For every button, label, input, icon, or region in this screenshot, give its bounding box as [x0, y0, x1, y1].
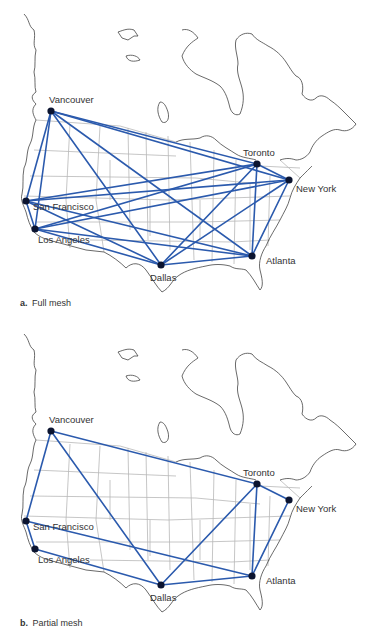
link-vancouver-sanfrancisco [26, 111, 51, 201]
coastline [21, 14, 356, 292]
label-dallas: Dallas [150, 592, 177, 603]
caption-text: Partial mesh [33, 618, 83, 628]
link-toronto-sanfrancisco [26, 164, 257, 201]
label-toronto: Toronto [243, 147, 275, 158]
link-vancouver-newyork [51, 111, 289, 180]
label-losangeles: Los Angeles [38, 234, 90, 245]
node-toronto [253, 160, 260, 167]
label-vancouver: Vancouver [49, 414, 94, 425]
label-sanfrancisco: San Francisco [33, 201, 94, 212]
link-vancouver-sanfrancisco [26, 431, 51, 521]
node-sanfrancisco [22, 517, 29, 524]
caption-partial-mesh: b. Partial mesh [20, 618, 83, 628]
link-vancouver-toronto [51, 111, 257, 164]
node-newyork [285, 496, 292, 503]
link-newyork-sanfrancisco [26, 180, 289, 201]
panel-full-mesh: VancouverTorontoNew YorkSan FranciscoLos… [0, 0, 387, 320]
label-sanfrancisco: San Francisco [33, 521, 94, 532]
map-partial-mesh: VancouverTorontoNew YorkSan FranciscoLos… [0, 320, 387, 640]
caption-letter: b. [20, 618, 28, 628]
node-atlanta [248, 572, 255, 579]
node-vancouver [47, 107, 54, 114]
node-dallas [157, 581, 164, 588]
node-vancouver [47, 427, 54, 434]
label-newyork: New York [296, 183, 336, 194]
caption-text: Full mesh [32, 298, 71, 308]
label-toronto: Toronto [243, 467, 275, 478]
coastline [21, 334, 356, 612]
label-newyork: New York [296, 503, 336, 514]
label-atlanta: Atlanta [266, 255, 296, 266]
map-full-mesh: VancouverTorontoNew YorkSan FranciscoLos… [0, 0, 387, 320]
label-vancouver: Vancouver [49, 94, 94, 105]
link-newyork-atlanta [252, 500, 289, 576]
label-losangeles: Los Angeles [38, 554, 90, 565]
link-dallas-atlanta [161, 256, 252, 265]
link-dallas-atlanta [161, 576, 252, 585]
link-toronto-losangeles [35, 164, 257, 229]
caption-letter: a. [20, 298, 28, 308]
node-atlanta [248, 252, 255, 259]
panel-partial-mesh: VancouverTorontoNew YorkSan FranciscoLos… [0, 320, 387, 640]
node-newyork [285, 176, 292, 183]
link-toronto-atlanta [252, 164, 257, 256]
node-losangeles [31, 225, 38, 232]
link-toronto-atlanta [252, 484, 257, 576]
node-sanfrancisco [22, 197, 29, 204]
label-atlanta: Atlanta [266, 575, 296, 586]
node-toronto [253, 480, 260, 487]
link-vancouver-toronto [51, 431, 257, 484]
caption-full-mesh: a. Full mesh [20, 298, 71, 308]
label-dallas: Dallas [150, 272, 177, 283]
node-dallas [157, 261, 164, 268]
node-losangeles [31, 545, 38, 552]
